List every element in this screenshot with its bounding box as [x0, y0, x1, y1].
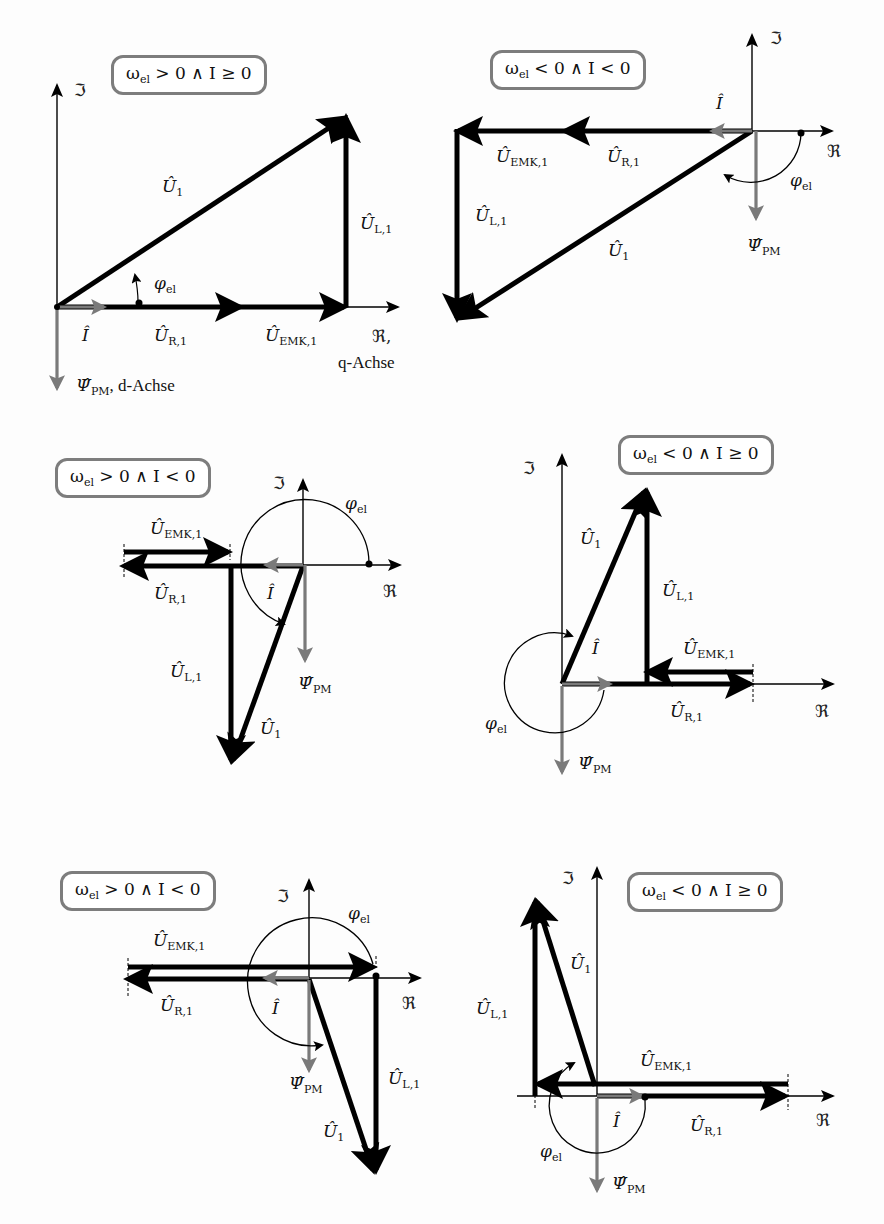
real-axis-label: ℜ,: [372, 328, 391, 345]
ur-label: ÛR,1: [690, 1117, 723, 1137]
u1-label: Û1: [580, 530, 601, 550]
u1-label: Û1: [570, 955, 591, 975]
phasor-diagram-figure: ωel > 0 ∧ I ≥ 0 ℑ Û1 ÛL,1 φel Î ÛR,1 ÛEM…: [0, 0, 884, 1224]
real-axis-label: ℜ: [402, 995, 416, 1012]
u1-label: Û1: [323, 1123, 344, 1143]
u1-label: Û1: [260, 720, 281, 740]
ul-label: ÛL,1: [476, 1000, 508, 1020]
ul-label: ÛL,1: [170, 663, 202, 683]
psi-pm-label: Ψ̂PM: [612, 1175, 646, 1195]
psi-pm-label: Ψ̂PM: [747, 237, 781, 257]
psi-pm-label: Ψ̂PM, d-Achse: [76, 377, 175, 397]
imag-axis-label: ℑ: [523, 460, 535, 477]
phi-label: φel: [345, 495, 367, 515]
condition-box-3: ωel > 0 ∧ I < 0: [55, 458, 211, 498]
condition-box-1: ωel > 0 ∧ I ≥ 0: [111, 55, 267, 95]
ur-label: ÛR,1: [607, 148, 640, 168]
current-label: Î: [82, 327, 89, 344]
panel-5: [128, 880, 420, 1170]
panel-4: [505, 455, 833, 772]
condition-box-2: ωel < 0 ∧ I < 0: [490, 50, 646, 90]
current-label: Î: [613, 1113, 620, 1130]
ul-label: ÛL,1: [360, 215, 392, 235]
imag-axis-label: ℑ: [74, 82, 86, 99]
phi-label: φel: [790, 172, 812, 192]
phi-label: φel: [154, 275, 176, 295]
current-label: Î: [272, 1000, 279, 1017]
uemk-label: ÛEMK,1: [683, 640, 735, 660]
phi-label: φel: [485, 715, 507, 735]
real-axis-label: ℜ: [816, 1112, 830, 1129]
phi-label: φel: [348, 905, 370, 925]
ur-label: ÛR,1: [160, 997, 193, 1017]
current-label: Î: [592, 640, 599, 657]
real-axis-label: ℜ: [815, 703, 829, 720]
condition-box-5: ωel > 0 ∧ I < 0: [60, 871, 216, 911]
imag-axis-label: ℑ: [562, 870, 574, 887]
u1-phasor: [562, 492, 644, 684]
ul-label: ÛL,1: [388, 1070, 420, 1090]
u1-label: Û1: [162, 178, 183, 198]
uemk-label: ÛEMK,1: [640, 1052, 692, 1072]
u1-phasor: [537, 902, 595, 1086]
current-label: Î: [267, 585, 274, 602]
panel-1: [54, 85, 398, 388]
uemk-label: ÛEMK,1: [496, 148, 548, 168]
ul-label: ÛL,1: [475, 207, 507, 227]
ur-label: ÛR,1: [670, 703, 703, 723]
imag-axis-label: ℑ: [277, 888, 289, 905]
psi-pm-label: Ψ̂PM: [298, 675, 332, 695]
diagram-canvas: [0, 0, 884, 1224]
condition-box-4: ωel < 0 ∧ I ≥ 0: [618, 435, 774, 475]
u1-label: Û1: [608, 242, 629, 262]
real-axis-label: ℜ: [383, 583, 397, 600]
imag-axis-label: ℑ: [273, 475, 285, 492]
uemk-label: ÛEMK,1: [150, 520, 202, 540]
ur-label: ÛR,1: [154, 327, 187, 347]
uemk-label: ÛEMK,1: [265, 327, 317, 347]
phi-arc: [135, 275, 138, 302]
uemk-label: ÛEMK,1: [153, 932, 205, 952]
condition-box-6: ωel < 0 ∧ I ≥ 0: [627, 872, 783, 912]
panel-6: [517, 868, 833, 1190]
ul-label: ÛL,1: [662, 582, 694, 602]
imag-axis-label: ℑ: [770, 30, 782, 47]
psi-pm-label: Ψ̂PM: [578, 755, 612, 775]
real-axis-label: ℜ: [827, 143, 841, 160]
phi-label: φel: [540, 1143, 562, 1163]
current-label: Î: [716, 95, 723, 112]
psi-pm-label: Ψ̂PM: [289, 1075, 323, 1095]
u1-phasor: [57, 118, 344, 307]
q-axis-label: q-Achse: [338, 354, 395, 371]
ur-label: ÛR,1: [154, 585, 187, 605]
